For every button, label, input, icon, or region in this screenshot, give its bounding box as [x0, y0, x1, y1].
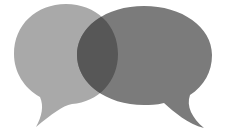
speech-bubbles-illustration: Two overlapping speech bubbles — [0, 0, 225, 136]
speech-bubbles-svg — [0, 0, 225, 136]
